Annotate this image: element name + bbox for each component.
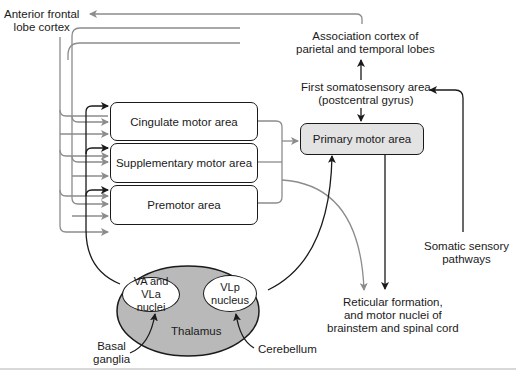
vlp-nucleus: VLp nucleus bbox=[203, 275, 257, 312]
somatosensory-label: First somatosensory area (postcentral gy… bbox=[301, 81, 431, 107]
va-vla-nucleus: VA and VLa nuclei bbox=[122, 277, 180, 312]
cingulate-motor-box: Cingulate motor area bbox=[110, 102, 258, 141]
anterior-frontal-label: Anterior frontal lobe cortex bbox=[4, 8, 79, 34]
association-cortex-label: Association cortex of parietal and tempo… bbox=[296, 30, 435, 56]
reticular-label: Reticular formation, and motor nuclei of… bbox=[327, 296, 459, 335]
cerebellum-label: Cerebellum bbox=[258, 343, 317, 356]
supplementary-motor-box: Supplementary motor area bbox=[110, 143, 258, 183]
somatic-pathways-label: Somatic sensory pathways bbox=[424, 240, 509, 266]
thalamus-label: Thalamus bbox=[171, 325, 222, 338]
bottom-divider bbox=[0, 368, 516, 370]
premotor-box: Premotor area bbox=[110, 185, 258, 225]
basal-ganglia-label: Basal ganglia bbox=[93, 340, 130, 366]
primary-motor-box: Primary motor area bbox=[300, 123, 424, 155]
